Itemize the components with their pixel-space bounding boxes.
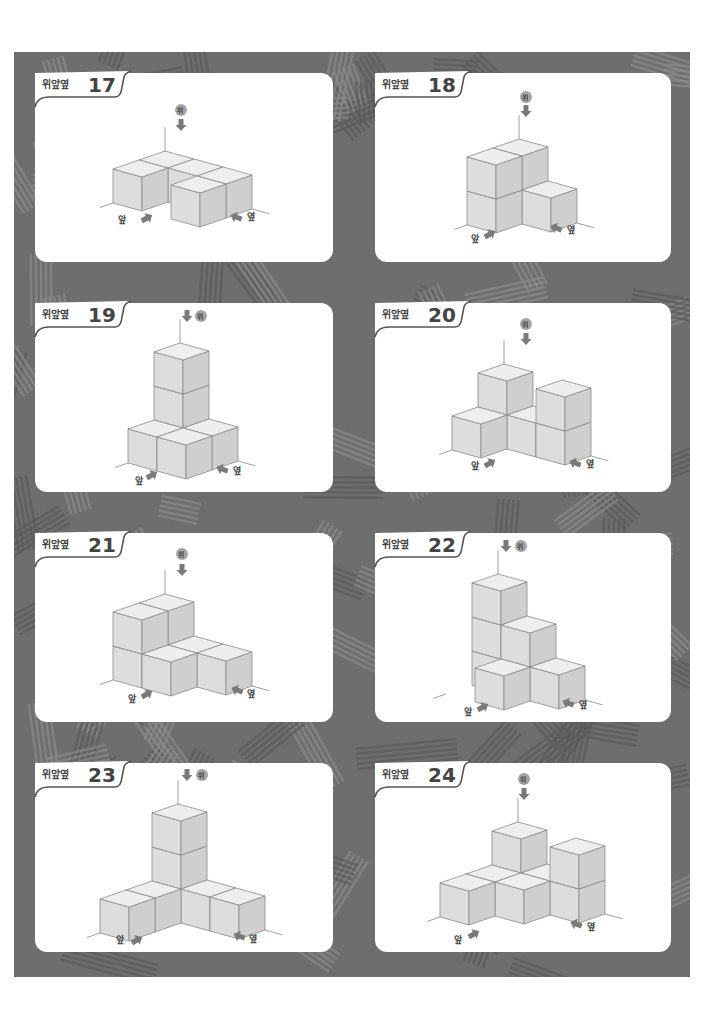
- puzzle-card-20: [375, 303, 671, 492]
- puzzle-card-24: [375, 763, 671, 952]
- puzzle-card-17: [35, 73, 333, 262]
- puzzle-card-23: [35, 763, 333, 952]
- puzzle-card-22: [375, 533, 671, 722]
- puzzle-card-18: [375, 73, 671, 262]
- puzzle-card-19: [35, 303, 333, 492]
- puzzle-card-21: [35, 533, 333, 722]
